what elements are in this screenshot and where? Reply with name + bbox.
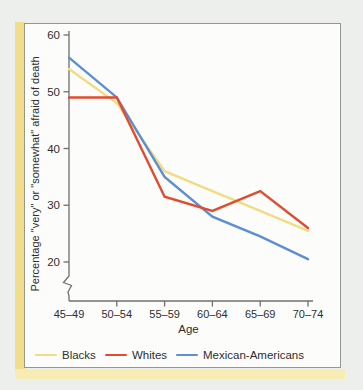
- fear-of-death-line-chart: 605040302045–4950–5455–5960–6465–6970–74…: [25, 24, 340, 340]
- yellow-accent-bar-bottom: [15, 369, 345, 379]
- legend-swatch-mexican-americans: [176, 354, 198, 357]
- y-axis-title: Percentage "very" or "somewhat" afraid o…: [29, 56, 41, 291]
- chart-legend: Blacks Whites Mexican-Americans: [35, 349, 313, 361]
- legend-item-whites: Whites: [105, 349, 167, 361]
- legend-item-blacks: Blacks: [35, 349, 96, 361]
- y-tick-label: 30: [47, 199, 60, 211]
- x-tick-label: 70–74: [293, 308, 324, 320]
- y-tick-label: 20: [47, 256, 60, 268]
- series-line-whites: [69, 97, 308, 228]
- legend-label-blacks: Blacks: [62, 349, 96, 361]
- y-tick-label: 60: [47, 29, 60, 41]
- y-tick-label: 40: [47, 143, 60, 155]
- legend-label-mexican-americans: Mexican-Americans: [203, 349, 304, 361]
- x-axis-title: Age: [178, 323, 198, 335]
- series-line-blacks: [69, 69, 308, 231]
- y-axis-line: [64, 31, 72, 301]
- figure-box: 605040302045–4950–5455–5960–6465–6970–74…: [24, 23, 341, 368]
- legend-label-whites: Whites: [132, 349, 167, 361]
- legend-item-mexican-americans: Mexican-Americans: [176, 349, 304, 361]
- legend-swatch-whites: [105, 354, 127, 357]
- series-line-mexican-americans: [69, 58, 308, 259]
- x-tick-label: 50–54: [102, 308, 133, 320]
- x-tick-label: 65–69: [245, 308, 276, 320]
- x-tick-label: 55–59: [149, 308, 180, 320]
- y-tick-label: 50: [47, 86, 60, 98]
- x-tick-label: 60–64: [197, 308, 228, 320]
- screenshot-root: 605040302045–4950–5455–5960–6465–6970–74…: [0, 0, 363, 390]
- legend-swatch-blacks: [35, 354, 57, 357]
- x-tick-label: 45–49: [54, 308, 85, 320]
